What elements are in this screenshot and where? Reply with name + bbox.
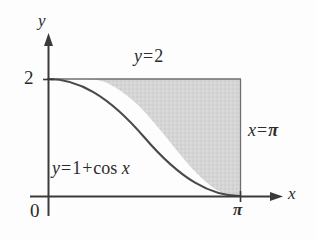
annotation-right-rhs: π: [268, 120, 278, 140]
figure-region-between-curves: y x 2 0 π y=2 x=π y=1+cos x: [0, 0, 316, 241]
origin-label-0: 0: [30, 201, 40, 220]
annotation-curve-argument: x: [122, 158, 130, 178]
annotation-y-equals-1-plus-cos-x: y=1+cos x: [52, 159, 130, 177]
annotation-y-equals-2: y=2: [134, 47, 163, 65]
y-tick-label-2: 2: [24, 68, 34, 87]
annotation-right-lhs: x: [248, 120, 256, 140]
annotation-top-rhs: 2: [154, 46, 163, 66]
x-axis-label: x: [288, 185, 296, 202]
y-axis-label: y: [38, 12, 46, 29]
x-axis-arrowhead-icon: [270, 192, 283, 201]
annotation-curve-plus: +: [81, 158, 93, 178]
x-tick-label-pi: π: [233, 201, 242, 218]
y-axis-arrowhead-icon: [44, 33, 53, 46]
annotation-curve-lhs: y: [52, 158, 60, 178]
annotation-top-lhs: y: [134, 46, 142, 66]
annotation-curve-one: 1: [72, 158, 81, 178]
annotation-top-equals: =: [142, 46, 154, 66]
annotation-curve-equals: =: [60, 158, 72, 178]
annotation-right-equals: =: [256, 120, 268, 140]
annotation-curve-function: cos: [93, 158, 117, 178]
annotation-x-equals-pi: x=π: [248, 121, 278, 139]
